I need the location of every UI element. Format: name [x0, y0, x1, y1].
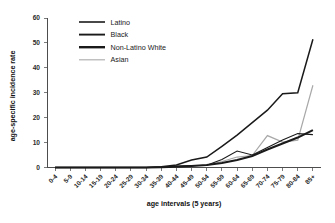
y-tick-label: 40 — [33, 64, 41, 71]
y-axis-ticks: 0102030405060 — [33, 14, 48, 171]
legend-item-black: Black — [79, 30, 128, 39]
x-axis-ticks: 0-45-910-1415-1920-2425-2930-3435-3940-4… — [47, 168, 317, 190]
legend-label: Asian — [111, 55, 129, 64]
x-tick-label: 55-59 — [209, 172, 226, 189]
legend-item-asian: Asian — [79, 55, 128, 64]
y-axis-title: age-specific incidence rate — [9, 51, 17, 142]
chart-legend: LatinoBlackNon-Latino WhiteAsian — [79, 18, 166, 65]
series-line-asian — [55, 85, 313, 167]
y-tick-label: 10 — [33, 139, 41, 146]
series-line-latino — [55, 39, 313, 167]
x-tick-label: 60-64 — [224, 172, 241, 189]
x-tick-label: 0-4 — [47, 172, 59, 184]
y-tick-label: 50 — [33, 39, 41, 46]
line-chart: age-specific incidence rate 010203040506… — [0, 0, 335, 223]
legend-label: Non-Latino White — [111, 43, 167, 52]
x-tick-label: 45-49 — [178, 172, 195, 189]
x-tick-label: 40-44 — [163, 172, 180, 189]
x-tick-label: 35-39 — [148, 172, 165, 189]
x-tick-label: 70-74 — [254, 172, 271, 189]
x-tick-label: 10-14 — [72, 172, 89, 189]
legend-label: Latino — [111, 18, 131, 27]
y-tick-label: 60 — [33, 14, 41, 21]
x-tick-label: 25-29 — [118, 172, 135, 189]
x-tick-label: 50-54 — [194, 172, 211, 189]
series-group — [55, 39, 313, 167]
legend-item-non-latino-white: Non-Latino White — [79, 43, 166, 52]
x-tick-label: 15-19 — [87, 172, 104, 189]
x-tick-label: 30-34 — [133, 172, 150, 189]
y-tick-label: 0 — [36, 164, 40, 171]
chart-figure: age-specific incidence rate 010203040506… — [0, 0, 335, 223]
x-tick-label: 65-69 — [239, 172, 256, 189]
x-tick-label: 75-79 — [269, 172, 286, 189]
x-tick-label: 20-24 — [103, 172, 120, 189]
x-tick-label: 80-84 — [285, 172, 302, 189]
legend-label: Black — [111, 30, 129, 39]
y-tick-label: 20 — [33, 114, 41, 121]
y-tick-label: 30 — [33, 89, 41, 96]
x-tick-label: 5-9 — [62, 172, 74, 184]
x-axis-title: age intervals (5 years) — [147, 200, 222, 208]
x-tick-label: 85+ — [304, 173, 317, 186]
legend-item-latino: Latino — [79, 18, 130, 27]
